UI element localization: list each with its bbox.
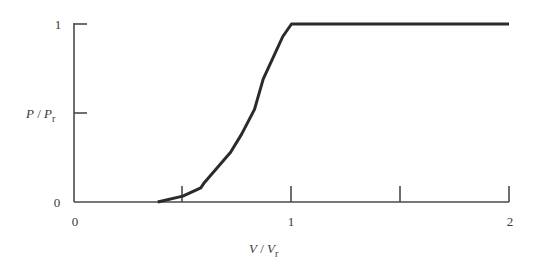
y-title-main: P <box>25 106 34 121</box>
axes <box>74 23 509 202</box>
y-title-denom: P <box>43 106 52 121</box>
y-title-sub: r <box>52 113 56 124</box>
power-curve-line <box>158 24 509 202</box>
x-title-slash: / <box>257 241 267 256</box>
y-tick-label-1: 1 <box>55 17 62 32</box>
y-title-slash: / <box>34 106 44 121</box>
y-tick-label-0: 0 <box>54 195 61 210</box>
x-axis-title: V / Vr <box>249 241 279 259</box>
x-tick-label-1: 1 <box>288 214 295 229</box>
power-curve-chart: 1 0 0 1 2 P / Pr V / Vr <box>0 0 534 276</box>
x-tick-label-2: 2 <box>507 214 514 229</box>
y-axis-title: P / Pr <box>25 106 56 124</box>
x-title-sub: r <box>275 248 279 259</box>
x-tick-label-0: 0 <box>72 214 79 229</box>
